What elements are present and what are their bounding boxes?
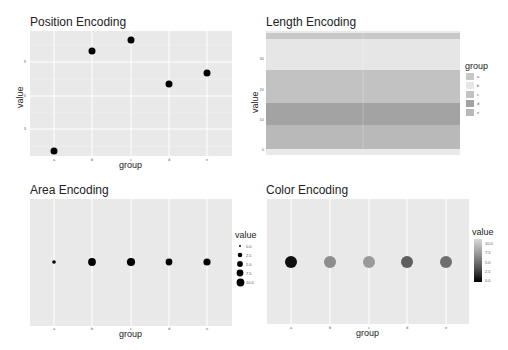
plot-area bbox=[30, 199, 232, 326]
legend-item: 0.0 bbox=[236, 242, 252, 250]
x-tick-label: b bbox=[87, 326, 97, 331]
point-b bbox=[88, 258, 96, 266]
point-e bbox=[204, 70, 211, 77]
color-encoding-panel: Color Encoding a b c d e group value 10.… bbox=[254, 175, 508, 350]
legend-label: 10.0 bbox=[485, 241, 493, 246]
x-axis-label: group bbox=[356, 328, 379, 338]
point-e bbox=[203, 258, 210, 265]
legend-label: 0.0 bbox=[485, 278, 491, 283]
point-b bbox=[324, 256, 336, 268]
chart-title: Position Encoding bbox=[30, 15, 126, 29]
point-d bbox=[166, 259, 173, 266]
x-axis-label: group bbox=[119, 329, 142, 339]
legend-item: 10.0 bbox=[236, 278, 254, 287]
legend-item-e: e bbox=[466, 109, 479, 116]
point-c bbox=[127, 258, 135, 266]
legend-label: 7.5 bbox=[485, 250, 491, 255]
legend-item-c: c bbox=[466, 91, 479, 98]
x-tick-label: a bbox=[49, 326, 59, 331]
legend-item: 2.5 bbox=[236, 251, 252, 259]
stacked-bar bbox=[266, 31, 460, 155]
x-tick-label: e bbox=[441, 325, 451, 330]
point-a bbox=[51, 148, 58, 155]
legend-item-b: b bbox=[466, 82, 479, 89]
legend-item: 5.0 bbox=[236, 260, 252, 268]
plot-area bbox=[266, 31, 460, 155]
legend-label: 2.5 bbox=[485, 269, 491, 274]
x-tick-label: b bbox=[87, 157, 97, 162]
y-axis-label: value bbox=[15, 86, 25, 108]
x-tick-label: d bbox=[164, 157, 174, 162]
x-tick-label: d bbox=[164, 326, 174, 331]
legend-label: 5.0 bbox=[485, 260, 491, 265]
point-d bbox=[166, 81, 173, 88]
point-a bbox=[52, 260, 56, 264]
area-encoding-panel: Area Encoding a b c d e group value 0.0 bbox=[0, 175, 254, 350]
x-tick-label: a bbox=[286, 325, 296, 330]
x-axis-label: group bbox=[119, 160, 142, 170]
point-d bbox=[401, 256, 413, 268]
point-c bbox=[363, 256, 375, 268]
y-axis-label: value bbox=[250, 91, 260, 113]
bubble-plot bbox=[30, 199, 232, 326]
x-tick-label: e bbox=[202, 157, 212, 162]
legend-title: value bbox=[472, 227, 494, 237]
legend-item-a: a bbox=[466, 73, 479, 80]
legend-item-d: d bbox=[466, 100, 479, 107]
plot-area bbox=[30, 31, 232, 156]
y-tick-label: 10 bbox=[252, 117, 264, 122]
point-a bbox=[285, 256, 297, 268]
point-b bbox=[89, 48, 96, 55]
y-tick-label: 9 bbox=[14, 59, 26, 64]
legend-item: 7.5 bbox=[236, 269, 252, 277]
position-encoding-panel: Position Encoding bbox=[0, 0, 254, 175]
chart-title: Length Encoding bbox=[266, 15, 356, 29]
x-tick-label: a bbox=[49, 157, 59, 162]
chart-title: Area Encoding bbox=[30, 183, 109, 197]
color-dot-plot bbox=[267, 199, 469, 324]
point-e bbox=[440, 256, 452, 268]
y-tick-label: 3 bbox=[14, 126, 26, 131]
legend-title: group bbox=[465, 61, 488, 71]
length-encoding-panel: Length Encoding 30 20 10 0 value group a… bbox=[254, 0, 508, 175]
y-tick-label: 0 bbox=[252, 147, 264, 152]
y-tick-label: 30 bbox=[252, 56, 264, 61]
x-tick-label: d bbox=[402, 325, 412, 330]
x-tick-label: b bbox=[325, 325, 335, 330]
chart-title: Color Encoding bbox=[266, 183, 348, 197]
scatter-plot bbox=[30, 31, 232, 156]
color-scale-bar bbox=[474, 239, 482, 282]
point-c bbox=[128, 37, 135, 44]
x-tick-label: e bbox=[202, 326, 212, 331]
plot-area bbox=[267, 199, 469, 324]
